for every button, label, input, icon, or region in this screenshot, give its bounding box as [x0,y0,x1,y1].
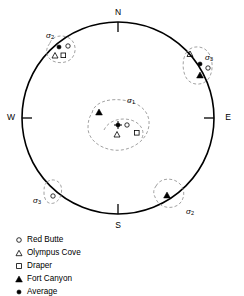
stress-axis-label-sigma2-northwest: σ2 [46,31,54,41]
marker-average-sigma3-northeast [198,62,202,66]
marker-average-sigma1 [114,121,122,129]
marker-draper-sigma2-northwest [61,53,66,58]
legend-label-average: Average [27,287,58,296]
marker-olympus-cove-sigma1 [114,132,120,138]
marker-red-butte-sigma1 [125,123,129,127]
legend-item-olympus-cove: Olympus Cove [16,248,81,257]
cardinal-label-west: W [7,112,15,122]
marker-olympus-cove-sigma2-northwest [52,53,58,59]
marker-average-sigma2-northwest [57,45,61,49]
stereonet-svg: N E S W σ1 σ2 [0,0,244,296]
stereonet-figure: N E S W σ1 σ2 [0,0,244,296]
svg-text:σ1: σ1 [127,96,135,106]
legend-label-draper: Draper [27,261,52,270]
marker-fort-canyon-sigma2-southeast [164,192,171,198]
open-square-icon [17,264,22,269]
marker-draper-sigma1 [135,131,140,136]
filled-circle-icon [17,290,21,294]
stress-axis-label-sigma3-southwest: σ3 [33,196,41,206]
sigma2se-subscript: 2 [191,211,194,217]
contour-sigma2-southeast [154,179,184,207]
sigma2nw-subscript: 2 [51,35,54,41]
sigma3sw-subscript: 3 [38,200,41,206]
primitive-circle [22,22,214,214]
cardinal-label-south: S [115,220,121,230]
sigma3ne-subscript: 3 [210,57,213,63]
legend-item-draper: Draper [17,261,53,270]
cardinal-label-north: N [115,7,121,17]
legend-label-fort-canyon: Fort Canyon [27,274,72,283]
cardinal-label-east: E [225,112,231,122]
contour-sigma3-southwest [44,180,62,204]
marker-fort-canyon-sigma1 [96,109,103,115]
open-circle-icon [17,238,22,243]
legend-item-fort-canyon: Fort Canyon [16,274,73,283]
svg-text:σ3: σ3 [205,53,213,63]
sigma1-subscript: 1 [132,100,135,106]
open-triangle-icon [16,250,22,255]
svg-text:σ3: σ3 [33,196,41,206]
svg-text:σ2: σ2 [186,207,194,217]
marker-red-butte-sigma3-southwest [51,194,55,198]
legend: Red Butte Olympus Cove Draper Fort Canyo… [16,235,82,296]
filled-triangle-icon [16,276,23,282]
legend-item-red-butte: Red Butte [17,235,64,244]
legend-item-average: Average [17,287,58,296]
legend-label-olympus-cove: Olympus Cove [27,248,81,257]
stress-axis-label-sigma2-southeast: σ2 [186,207,194,217]
stress-axis-label-sigma1: σ1 [127,96,135,106]
marker-red-butte-sigma3-northeast [206,66,210,70]
legend-label-red-butte: Red Butte [27,235,64,244]
svg-text:σ2: σ2 [46,31,54,41]
marker-red-butte-sigma2-northwest [66,44,70,48]
stress-axis-label-sigma3-northeast: σ3 [205,53,213,63]
